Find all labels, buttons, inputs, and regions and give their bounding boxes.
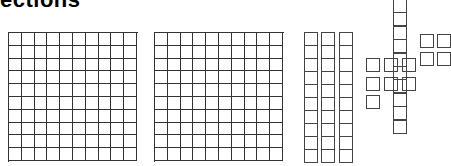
vertical-rod-cell (393, 66, 407, 80)
grid-cell (245, 33, 258, 46)
grid-cell (245, 148, 258, 161)
grid-cell (193, 46, 206, 59)
grid-cell (99, 123, 112, 136)
grid-cell (219, 59, 232, 72)
grid-cell (270, 59, 283, 72)
grid-cell (35, 46, 48, 59)
grid-cell (111, 97, 124, 110)
grid-cell (47, 148, 60, 161)
grid-cell (232, 59, 245, 72)
hundred-flat-flat-2 (154, 32, 284, 162)
grid-cell (219, 84, 232, 97)
grid-cell (257, 59, 270, 72)
grid-cell (99, 148, 112, 161)
grid-cell (245, 84, 258, 97)
vertical-rod-cell (393, 120, 407, 134)
grid-cell (257, 110, 270, 123)
grid-cell (86, 135, 99, 148)
grid-cell (60, 59, 73, 72)
grid-cell (181, 84, 194, 97)
grid-cell (193, 33, 206, 46)
grid-cell (35, 33, 48, 46)
grid-cell (232, 84, 245, 97)
grid-cell (257, 97, 270, 110)
vertical-rod-cell (393, 12, 407, 26)
grid-cell (232, 110, 245, 123)
grid-cell (124, 97, 137, 110)
grid-cell (181, 110, 194, 123)
grid-cell (111, 110, 124, 123)
grid-cell (111, 33, 124, 46)
grid-cell (124, 110, 137, 123)
section-title: ections (0, 0, 81, 11)
grid-cell (245, 110, 258, 123)
ten-rod-cell (304, 84, 318, 98)
grid-cell (168, 46, 181, 59)
grid-cell (206, 97, 219, 110)
grid-cell (111, 84, 124, 97)
grid-cell (181, 46, 194, 59)
ten-rod-cell (321, 97, 335, 111)
unit-cube (437, 52, 451, 66)
grid-cell (86, 71, 99, 84)
grid-cell (9, 135, 22, 148)
grid-cell (73, 33, 86, 46)
grid-cell (35, 123, 48, 136)
grid-cell (257, 148, 270, 161)
grid-cell (232, 33, 245, 46)
grid-cell (232, 97, 245, 110)
grid-cell (155, 135, 168, 148)
ten-rod-cell (321, 71, 335, 85)
grid-cell (219, 97, 232, 110)
grid-cell (181, 97, 194, 110)
vertical-rod-cell (393, 106, 407, 120)
grid-cell (47, 33, 60, 46)
ten-rod-cell (321, 58, 335, 72)
grid-cell (47, 71, 60, 84)
grid-cell (168, 59, 181, 72)
vertical-rod-cell (393, 26, 407, 40)
ten-rod-cell (304, 32, 318, 46)
ten-rod-cell (321, 149, 335, 163)
ten-rod-cell (321, 110, 335, 124)
grid-cell (181, 135, 194, 148)
grid-cell (245, 59, 258, 72)
vertical-rod-cell (393, 0, 407, 13)
grid-cell (270, 71, 283, 84)
ten-rod-cell (304, 149, 318, 163)
grid-cell (86, 148, 99, 161)
vertical-rod-cell (393, 53, 407, 67)
grid-cell (47, 59, 60, 72)
grid-cell (232, 148, 245, 161)
grid-cell (206, 84, 219, 97)
grid-cell (257, 71, 270, 84)
grid-cell (9, 46, 22, 59)
grid-cell (181, 59, 194, 72)
ten-rod-cell (339, 58, 353, 72)
grid-cell (181, 71, 194, 84)
vertical-rod-cell (393, 93, 407, 107)
grid-cell (60, 71, 73, 84)
unit-cube (420, 34, 434, 48)
grid-cell (206, 148, 219, 161)
grid-cell (9, 84, 22, 97)
grid-cell (60, 135, 73, 148)
grid-cell (155, 33, 168, 46)
ten-rod-cell (339, 136, 353, 150)
grid-cell (270, 110, 283, 123)
grid-cell (47, 84, 60, 97)
ten-rod-cell (304, 71, 318, 85)
grid-cell (73, 148, 86, 161)
grid-cell (99, 59, 112, 72)
ten-rod-cell (321, 84, 335, 98)
grid-cell (206, 135, 219, 148)
grid-cell (270, 33, 283, 46)
grid-cell (124, 46, 137, 59)
grid-cell (99, 46, 112, 59)
grid-cell (60, 46, 73, 59)
grid-cell (193, 84, 206, 97)
grid-cell (206, 46, 219, 59)
grid-cell (35, 97, 48, 110)
grid-cell (35, 110, 48, 123)
grid-cell (99, 110, 112, 123)
